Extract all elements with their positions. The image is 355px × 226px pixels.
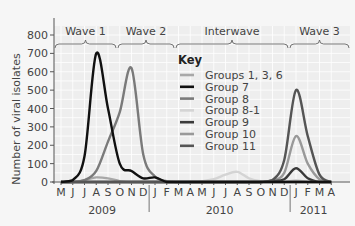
period-label: Wave 3 bbox=[299, 25, 340, 38]
line-chart: 0100200300400500600700800MJJASONDJFMAMJJ… bbox=[0, 0, 355, 226]
x-tick-label: M bbox=[56, 186, 66, 199]
x-tick-label: J bbox=[293, 186, 297, 199]
y-tick-label: 200 bbox=[27, 139, 48, 152]
x-tick-label: A bbox=[186, 186, 194, 199]
x-tick-label: S bbox=[246, 186, 253, 199]
y-tick-label: 500 bbox=[27, 84, 48, 97]
x-tick-label: M bbox=[315, 186, 325, 199]
chart-container: 0100200300400500600700800MJJASONDJFMAMJJ… bbox=[0, 0, 355, 226]
y-tick-label: 0 bbox=[41, 176, 48, 189]
x-tick-label: M bbox=[197, 186, 207, 199]
x-tick-label: O bbox=[256, 186, 265, 199]
y-tick-label: 800 bbox=[27, 29, 48, 42]
x-tick-label: F bbox=[164, 186, 170, 199]
y-tick-label: 700 bbox=[27, 47, 48, 60]
x-tick-label: A bbox=[327, 186, 335, 199]
legend-title: Key bbox=[178, 53, 203, 67]
x-tick-label: O bbox=[115, 186, 124, 199]
x-tick-label: N bbox=[127, 186, 135, 199]
year-label: 2009 bbox=[88, 204, 116, 217]
y-tick-label: 300 bbox=[27, 121, 48, 134]
x-tick-label: D bbox=[139, 186, 147, 199]
period-label: Wave 2 bbox=[126, 25, 167, 38]
y-axis-title: Number of viral isolates bbox=[10, 53, 23, 185]
x-tick-label: F bbox=[305, 186, 311, 199]
period-label: Interwave bbox=[205, 25, 260, 38]
x-tick-label: J bbox=[211, 186, 215, 199]
year-label: 2010 bbox=[206, 204, 234, 217]
x-tick-label: J bbox=[70, 186, 74, 199]
x-tick-label: N bbox=[268, 186, 276, 199]
x-tick-label: M bbox=[174, 186, 184, 199]
x-tick-label: J bbox=[152, 186, 156, 199]
x-tick-label: S bbox=[105, 186, 112, 199]
x-tick-label: D bbox=[280, 186, 288, 199]
y-tick-label: 400 bbox=[27, 103, 48, 116]
year-label: 2011 bbox=[300, 204, 328, 217]
y-tick-label: 600 bbox=[27, 66, 48, 79]
x-tick-label: A bbox=[92, 186, 100, 199]
x-tick-label: A bbox=[233, 186, 241, 199]
x-tick-label: J bbox=[82, 186, 86, 199]
period-label: Wave 1 bbox=[65, 25, 106, 38]
legend-entry: Group 11 bbox=[205, 140, 256, 153]
x-tick-label: J bbox=[223, 186, 227, 199]
y-tick-label: 100 bbox=[27, 158, 48, 171]
